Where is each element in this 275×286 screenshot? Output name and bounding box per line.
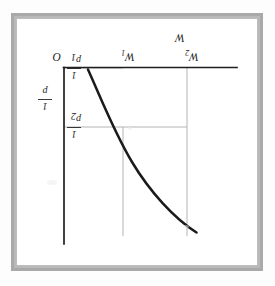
label-w1-subscript: 1	[121, 48, 125, 57]
label-origin: O	[52, 51, 61, 63]
scan-fleck	[47, 180, 57, 185]
label-p2-fraction: 1 p2	[67, 111, 82, 140]
label-w1-letter: W	[124, 51, 135, 63]
label-p2-numerator: 1	[72, 129, 77, 140]
figure-page: O W1 W2 W 1	[0, 0, 275, 286]
label-x-axis: W	[174, 32, 185, 44]
label-p2-den-letter: p	[76, 114, 82, 125]
labels: O W1 W2 W 1	[38, 32, 199, 140]
axes	[64, 68, 238, 245]
label-p1-fraction: 1 p1	[67, 52, 82, 81]
label-w2-subscript: 2	[185, 48, 189, 57]
label-y-axis-denominator: p	[43, 86, 49, 97]
demand-curve	[88, 70, 197, 233]
label-p1-den-subscript: 1	[71, 52, 76, 63]
label-w2: W2	[185, 48, 199, 63]
chart-rotated-container: O W1 W2 W 1	[16, 18, 258, 266]
label-p1-denominator: p1	[71, 52, 82, 66]
label-p2-den-subscript: 2	[71, 111, 76, 122]
label-p1-numerator: 1	[72, 70, 77, 81]
scan-fleck	[183, 225, 189, 228]
chart-svg: O W1 W2 W 1	[16, 18, 258, 266]
label-w2-letter: W	[188, 51, 199, 63]
chart-figure: O W1 W2 W 1	[16, 18, 258, 266]
label-y-axis-numerator: 1	[43, 101, 48, 112]
curve-group	[88, 70, 197, 233]
label-p1-den-letter: p	[76, 55, 82, 66]
label-w1: W1	[121, 48, 135, 63]
label-y-axis-fraction: 1 p	[38, 86, 52, 112]
scan-fleck	[128, 127, 132, 130]
label-p2-denominator: p2	[71, 111, 82, 125]
